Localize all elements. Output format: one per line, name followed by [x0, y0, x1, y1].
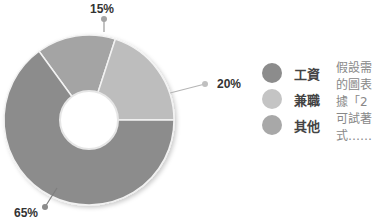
chart-legend: 工資 兼職 其他: [262, 60, 320, 138]
legend-swatch-icon: [262, 115, 282, 135]
leader-dot-20: [202, 81, 208, 87]
donut-hole: [60, 91, 118, 149]
legend-label: 其他: [294, 116, 320, 135]
leader-dot-65: [42, 204, 48, 210]
legend-swatch-icon: [262, 89, 282, 109]
legend-label: 工資: [294, 64, 320, 83]
label-15-percent: 15%: [90, 2, 114, 16]
label-65-percent: 65%: [14, 206, 38, 220]
side-text-line: 可試著: [336, 111, 376, 128]
leader-dot-15: [101, 16, 107, 22]
side-text-line: 式……: [336, 128, 376, 145]
side-text-line: 據「2: [336, 94, 376, 111]
legend-swatch-icon: [262, 63, 282, 83]
leader-line-20: [170, 84, 205, 93]
side-description-text: 假設需 的圖表 據「2 可試著 式……: [336, 60, 376, 145]
side-text-line: 假設需: [336, 60, 376, 77]
legend-item-other: 其他: [262, 112, 320, 138]
side-text-line: 的圖表: [336, 77, 376, 94]
label-20-percent: 20%: [217, 77, 241, 91]
legend-item-wages: 工資: [262, 60, 320, 86]
legend-item-parttime: 兼職: [262, 86, 320, 112]
legend-label: 兼職: [294, 90, 320, 109]
